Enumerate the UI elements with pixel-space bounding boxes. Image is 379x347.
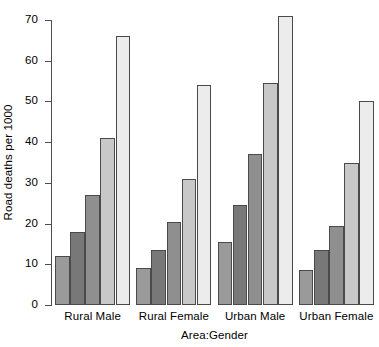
bar <box>299 270 314 305</box>
bar <box>278 16 293 305</box>
y-axis-tick-label: 10 <box>10 258 38 269</box>
x-axis-label: Area:Gender <box>52 329 377 341</box>
x-axis-group-label: Urban Female <box>296 310 377 322</box>
bar <box>100 138 115 305</box>
bar <box>344 163 359 306</box>
bar-group <box>52 20 133 305</box>
bar <box>248 154 263 305</box>
bar <box>263 83 278 305</box>
y-axis-tick <box>45 20 51 21</box>
x-axis-group-label: Rural Male <box>52 310 133 322</box>
bar <box>167 222 182 305</box>
bar <box>85 195 100 305</box>
y-axis-tick-label: 40 <box>10 136 38 147</box>
y-axis-tick <box>45 61 51 62</box>
bar-group <box>296 20 377 305</box>
plot-area <box>52 20 377 305</box>
y-axis-tick <box>45 183 51 184</box>
y-axis-tick-label: 50 <box>10 95 38 106</box>
y-axis-tick <box>45 264 51 265</box>
y-axis-tick <box>45 142 51 143</box>
bar <box>359 101 374 305</box>
bar <box>314 250 329 305</box>
bar <box>55 256 70 305</box>
bar-group <box>133 20 214 305</box>
y-axis-tick <box>45 101 51 102</box>
y-axis-tick-label: 0 <box>10 299 38 310</box>
y-axis-tick-label: 70 <box>10 14 38 25</box>
y-axis-tick-label: 60 <box>10 55 38 66</box>
bar-group <box>215 20 296 305</box>
bar <box>233 205 248 305</box>
bar <box>218 242 233 305</box>
y-axis-tick-label: 20 <box>10 218 38 229</box>
bar <box>116 36 131 305</box>
bar <box>70 232 85 305</box>
y-axis-tick <box>45 224 51 225</box>
bar <box>329 226 344 305</box>
bar <box>151 250 166 305</box>
bar-chart: Road deaths per 1000 010203040506070 Rur… <box>0 0 379 347</box>
bar <box>197 85 212 305</box>
y-axis-tick <box>45 305 51 306</box>
bar <box>136 268 151 305</box>
x-axis-group-label: Rural Female <box>133 310 214 322</box>
y-axis-tick-label: 30 <box>10 177 38 188</box>
bar <box>182 179 197 305</box>
x-axis-group-label: Urban Male <box>215 310 296 322</box>
